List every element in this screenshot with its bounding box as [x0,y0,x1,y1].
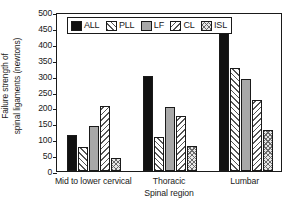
y-axis-tick-mark [53,109,57,110]
y-axis-tick-mark [53,46,57,47]
y-axis-tick-mark [53,14,57,15]
legend-swatch-isl-icon [201,21,212,31]
legend-label: LF [154,21,164,30]
y-axis-tick-label: 400 [26,41,52,50]
plot-area: ALLPLLLFCLISL [56,13,282,172]
bar-cl-1 [176,116,186,171]
bar-isl-1 [187,146,197,171]
y-axis-tick-mark [53,62,57,63]
x-axis-tick-label: Mid to lower cervical [55,176,132,186]
bar-group [67,14,121,171]
legend-swatch-cl-icon [170,21,181,31]
legend-label: ALL [84,21,99,30]
y-axis-tick-label: 250 [26,88,52,97]
bar-all-0 [67,135,77,171]
legend-label: CL [183,21,194,30]
y-axis-tick-label: 300 [26,72,52,81]
legend-swatch-pll-icon [106,21,117,31]
bar-all-2 [219,28,229,171]
y-axis-tick-label: 100 [26,136,52,145]
legend-item-isl: ISL [201,21,227,31]
bar-isl-2 [263,130,273,171]
y-axis-title-line-1: Failure strength of [0,0,12,172]
legend-swatch-all-icon [71,21,82,31]
y-axis-tick-label: 150 [26,120,52,129]
y-axis-tick-mark [53,94,57,95]
bar-lf-2 [241,79,251,171]
legend-swatch-lf-icon [141,21,152,31]
y-axis-tick-mark [53,157,57,158]
y-axis-tick-label: 50 [26,152,52,161]
legend-item-pll: PLL [106,21,134,31]
bar-all-1 [143,76,153,171]
bar-pll-0 [78,147,88,171]
y-axis-tick-mark [53,173,57,174]
x-axis-title: Spinal region [56,188,282,198]
bar-lf-0 [89,126,99,171]
y-axis-tick-label: 500 [26,9,52,18]
plot-inner [57,14,281,171]
x-axis-tick-label: Lumbar [230,176,259,186]
bar-lf-1 [165,107,175,171]
legend-label: PLL [119,21,134,30]
y-axis-tick-labels: 050100150200250300350400450500 [26,0,52,204]
y-axis-tick-label: 0 [26,168,52,177]
bar-pll-1 [154,137,164,171]
y-axis-tick-label: 350 [26,56,52,65]
bar-isl-0 [111,158,121,171]
y-axis-tick-mark [53,125,57,126]
y-axis-tick-label: 450 [26,25,52,34]
bar-cl-0 [100,106,110,171]
bar-group [219,14,273,171]
x-axis-tick-label: Thoracic [153,176,186,186]
legend-item-lf: LF [141,21,164,31]
bar-pll-2 [230,68,240,171]
bar-cl-2 [252,100,262,171]
y-axis-tick-label: 200 [26,104,52,113]
legend-item-cl: CL [170,21,194,31]
legend-label: ISL [214,21,227,30]
bar-group [143,14,197,171]
y-axis-title-line-2: spinal ligaments (newtons) [12,0,24,172]
y-axis-tick-mark [53,30,57,31]
y-axis-tick-mark [53,78,57,79]
chart-legend: ALLPLLLFCLISL [67,17,232,34]
legend-item-all: ALL [71,21,99,31]
y-axis-tick-mark [53,141,57,142]
bar-chart-figure: Failure strength of spinal ligaments (ne… [0,0,288,204]
